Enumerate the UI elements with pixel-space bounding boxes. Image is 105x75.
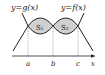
label-s1: S₁ [36, 24, 44, 32]
label-s2: S₂ [61, 24, 69, 32]
label-a: a [26, 60, 30, 68]
label-f-curve: y=f(x) [60, 3, 86, 12]
diagram-canvas: y=g(x) y=f(x) S₁ S₂ a b c x [0, 0, 105, 75]
x-axis-arrow-icon [91, 54, 95, 57]
label-b: b [51, 60, 56, 68]
label-g-curve: y=g(x) [10, 3, 38, 12]
area-between-curves-diagram: y=g(x) y=f(x) S₁ S₂ a b c x [0, 0, 105, 75]
label-x-axis: x [91, 60, 95, 68]
label-c: c [76, 60, 80, 68]
